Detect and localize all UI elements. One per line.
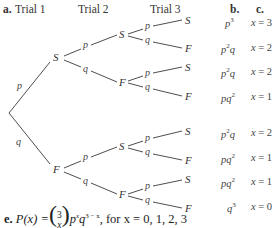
branch-label-p: p (145, 181, 150, 191)
formula-lhs: P(x) = (16, 212, 49, 226)
outcome-x-value: x = 2 (251, 43, 272, 54)
outcome-x-value: x = 1 (251, 177, 272, 188)
outcome-probability: pq2 (221, 177, 235, 190)
tree-node-F: F (53, 164, 60, 175)
leaf-node-S: S (185, 174, 191, 185)
branch-label-q: q (83, 176, 88, 186)
tree-node-S: S (53, 52, 59, 63)
part-a-label: a. (3, 4, 12, 16)
trial2-header: Trial 2 (78, 4, 109, 16)
part-c-label: c. (256, 4, 264, 16)
tree-node-S: S (119, 141, 125, 152)
leaf-node-S: S (185, 62, 191, 73)
branch-label-p: p (145, 133, 150, 143)
binomial-close-paren: ) (62, 201, 70, 227)
binomial-open-paren: ( (49, 201, 57, 227)
branch-label-q: q (145, 147, 150, 157)
tree-branches (0, 0, 272, 228)
outcome-probability: p3 (225, 17, 234, 30)
branch-label-q: q (16, 137, 21, 147)
outcome-x-value: x = 1 (251, 153, 272, 164)
outcome-probability: p2q (221, 128, 235, 141)
branch-label-q: q (145, 82, 150, 92)
trial3-header: Trial 3 (150, 4, 181, 16)
outcome-probability: q3 (227, 202, 236, 215)
branch-label-p: p (145, 68, 150, 78)
binomial-formula: e. P(x) =(3x)pxq3 − x, for x = 0, 1, 2, … (4, 203, 187, 228)
outcome-probability: pq2 (221, 92, 235, 105)
part-b-label: b. (230, 4, 239, 16)
outcome-probability: p2q (221, 67, 235, 80)
leaf-node-F: F (185, 91, 192, 102)
outcome-probability: pq2 (221, 153, 235, 166)
outcome-x-value: x = 2 (251, 128, 272, 139)
branch-label-q: q (145, 35, 150, 45)
outcome-x-value: x = 2 (251, 67, 272, 78)
branch-label-p: p (17, 81, 22, 91)
trial1-header: Trial 1 (15, 4, 46, 16)
tree-node-F: F (119, 77, 126, 88)
outcome-x-value: x = 3 (251, 18, 272, 29)
leaf-node-S: S (185, 15, 191, 26)
branch-label-p: p (83, 152, 88, 162)
outcome-x-value: x = 0 (251, 202, 272, 213)
leaf-node-F: F (185, 43, 192, 54)
tree-node-S: S (119, 29, 125, 40)
leaf-node-F: F (185, 155, 192, 166)
branch-label-p: p (145, 21, 150, 31)
formula-domain: , for x = 0, 1, 2, 3 (100, 212, 187, 226)
branch-label-p: p (83, 40, 88, 50)
part-e-label: e. (4, 212, 13, 226)
branch-label-q: q (83, 64, 88, 74)
outcome-x-value: x = 1 (251, 92, 272, 103)
leaf-node-S: S (185, 126, 191, 137)
outcome-probability: p2q (221, 43, 235, 56)
binomial-coefficient: 3x (57, 210, 62, 228)
tree-node-F: F (119, 189, 126, 200)
